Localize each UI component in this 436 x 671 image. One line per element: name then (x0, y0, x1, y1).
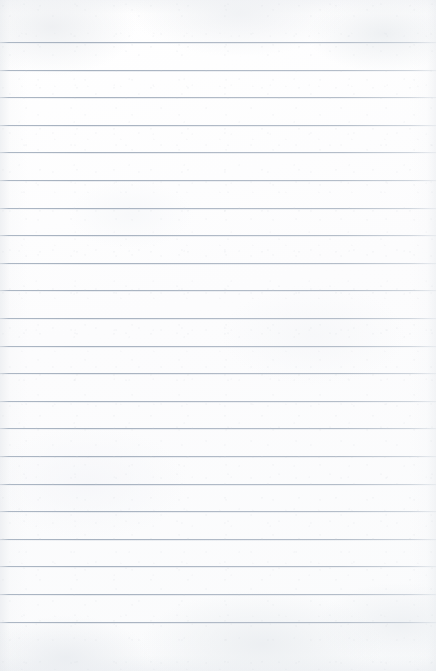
rule-line (0, 208, 436, 209)
rule-line (0, 235, 436, 236)
rule-line (0, 70, 436, 71)
rule-line (0, 152, 436, 153)
rule-line (0, 401, 436, 402)
rule-line (0, 622, 436, 623)
rule-line (0, 263, 436, 264)
rule-line (0, 428, 436, 429)
rule-line (0, 373, 436, 374)
rule-line (0, 318, 436, 319)
rule-line (0, 290, 436, 291)
rule-line (0, 484, 436, 485)
rule-line (0, 125, 436, 126)
rule-line (0, 594, 436, 595)
rule-line (0, 511, 436, 512)
lined-paper-page (0, 0, 436, 671)
rule-line (0, 180, 436, 181)
rule-line (0, 456, 436, 457)
rule-line (0, 539, 436, 540)
rule-line-group (0, 0, 436, 671)
rule-line (0, 346, 436, 347)
rule-line (0, 566, 436, 567)
rule-line (0, 97, 436, 98)
rule-line (0, 42, 436, 43)
